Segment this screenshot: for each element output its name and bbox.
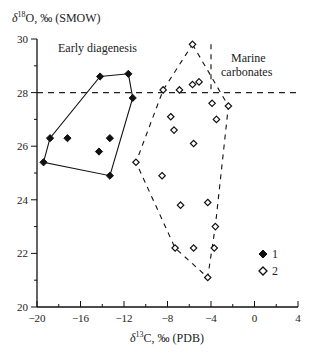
x-axis-title: δ13C, ‰ (PDB) xyxy=(130,330,204,345)
open-diamond-marker xyxy=(190,140,196,146)
annotation-early-diagenesis: Early diagenesis xyxy=(58,41,137,55)
envelope-2 xyxy=(136,44,228,277)
open-diamond-marker xyxy=(189,41,195,47)
open-diamond-icon xyxy=(259,267,267,275)
annotation-marine: Marine xyxy=(231,51,266,65)
x-tick-label: −16 xyxy=(72,312,90,324)
scatter-chart: 202224262830−20−16−12−8−404 δ18O, ‰ (SMO… xyxy=(0,0,312,355)
y-tick-label: 22 xyxy=(17,247,28,259)
open-diamond-marker xyxy=(133,159,139,165)
annotation-carbonates: carbonates xyxy=(221,65,273,79)
data-points xyxy=(40,41,232,281)
open-diamond-marker xyxy=(171,127,177,133)
y-tick-label: 20 xyxy=(17,301,29,313)
filled-diamond-marker xyxy=(106,172,113,179)
x-tick-label: −12 xyxy=(115,312,132,324)
open-diamond-marker xyxy=(205,274,211,280)
open-diamond-marker xyxy=(159,172,165,178)
legend-label-1: 1 xyxy=(272,247,278,261)
x-tick-label: 0 xyxy=(252,312,258,324)
open-diamond-marker xyxy=(196,79,202,85)
open-diamond-marker xyxy=(190,245,196,251)
filled-diamond-marker xyxy=(95,148,102,155)
y-tick-label: 24 xyxy=(17,194,29,206)
filled-diamond-marker xyxy=(125,70,132,77)
x-tick-label: −8 xyxy=(162,312,174,324)
x-tick-label: −4 xyxy=(205,312,217,324)
open-diamond-marker xyxy=(213,116,219,122)
envelope-1 xyxy=(44,74,133,176)
x-tick-label: 4 xyxy=(295,312,301,324)
y-tick-label: 30 xyxy=(17,33,29,45)
filled-diamond-marker xyxy=(129,94,136,101)
open-diamond-marker xyxy=(205,199,211,205)
legend: 1 2 xyxy=(259,247,278,278)
open-diamond-marker xyxy=(209,100,215,106)
open-diamond-marker xyxy=(177,202,183,208)
y-axis-title: δ18O, ‰ (SMOW) xyxy=(12,10,101,25)
y-tick-label: 26 xyxy=(17,140,29,152)
x-tick-label: −20 xyxy=(28,312,46,324)
filled-diamond-marker xyxy=(106,135,113,142)
open-diamond-marker xyxy=(189,81,195,87)
open-diamond-marker xyxy=(225,103,231,109)
legend-label-2: 2 xyxy=(272,264,278,278)
filled-diamond-icon xyxy=(259,250,267,258)
open-diamond-marker xyxy=(168,114,174,120)
open-diamond-marker xyxy=(212,223,218,229)
filled-diamond-marker xyxy=(40,159,47,166)
filled-diamond-marker xyxy=(64,135,71,142)
y-tick-label: 28 xyxy=(17,87,29,99)
